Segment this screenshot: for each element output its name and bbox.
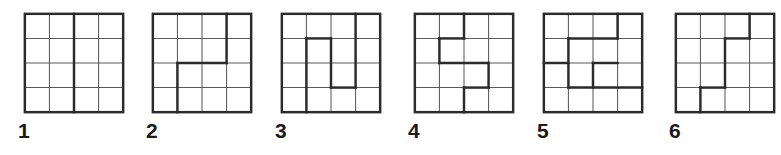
figure-strip: 123456 xyxy=(0,0,781,155)
figure-label-4: 4 xyxy=(408,120,420,141)
panel-1-grid xyxy=(22,11,126,115)
figure-label-5: 5 xyxy=(537,120,549,141)
panel-2: 2 xyxy=(130,0,256,155)
panel-6: 6 xyxy=(653,0,779,155)
panel-4: 4 xyxy=(392,0,518,155)
panel-1: 1 xyxy=(2,0,128,155)
figure-label-1: 1 xyxy=(18,120,30,141)
panel-5: 5 xyxy=(521,0,647,155)
panel-5-grid xyxy=(541,11,645,115)
panel-3-grid xyxy=(279,11,383,115)
panel-4-grid xyxy=(412,11,516,115)
figure-label-3: 3 xyxy=(275,120,287,141)
panel-3: 3 xyxy=(259,0,385,155)
panel-6-grid xyxy=(673,11,777,115)
panel-2-grid xyxy=(150,11,254,115)
figure-label-6: 6 xyxy=(669,120,681,141)
division-path xyxy=(439,14,488,112)
figure-label-2: 2 xyxy=(146,120,158,141)
